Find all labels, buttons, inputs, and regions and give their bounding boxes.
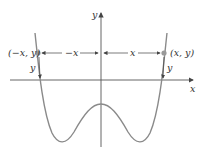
right-height-label: y (166, 62, 173, 73)
point-right-label: (x, y) (170, 47, 194, 58)
left-distance-label: −x (65, 47, 79, 58)
right-distance-label: x (130, 47, 136, 58)
even-function-diagram: x y −x x y y (−x, y) (x, y) (0, 0, 209, 160)
y-axis-label: y (91, 9, 98, 20)
left-height-label: y (29, 62, 36, 73)
point-right (161, 50, 166, 55)
right-height-arrow (163, 57, 164, 78)
point-left-label: (−x, y) (8, 47, 40, 58)
x-axis-label: x (190, 83, 196, 94)
